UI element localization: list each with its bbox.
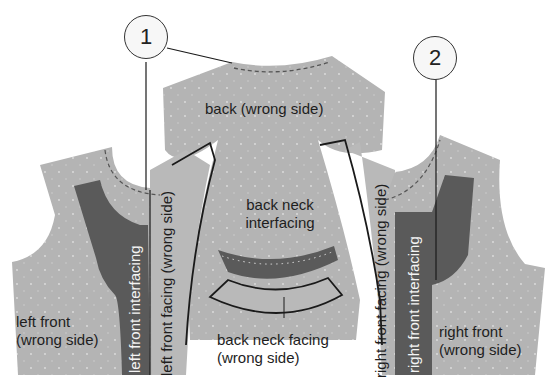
- right-front-facing-label: right front facing (wrong side): [372, 184, 389, 378]
- sewing-diagram: 1 2 back (wrong side) back neck interfac…: [0, 0, 556, 389]
- right-front-label-line1: right front: [439, 323, 522, 341]
- back-neck-interfacing-label-line2: interfacing: [238, 214, 322, 232]
- right-front-label-line2: (wrong side): [439, 341, 522, 359]
- right-front-label: right front (wrong side): [439, 323, 522, 359]
- callout-1-leader-diagonal: [167, 48, 232, 63]
- callout-1: 1: [124, 15, 168, 59]
- back-neck-facing-label-line2: (wrong side): [217, 349, 329, 367]
- left-front-label: left front (wrong side): [16, 313, 99, 349]
- left-front-interfacing-label: left front interfacing: [126, 245, 143, 373]
- back-neck-facing-label: back neck facing (wrong side): [217, 331, 329, 367]
- callout-2: 2: [413, 36, 457, 80]
- back-neck-interfacing-label: back neck interfacing: [238, 196, 322, 232]
- right-front-interfacing-label: right front interfacing: [405, 236, 422, 373]
- back-neck-interfacing-label-line1: back neck: [238, 196, 322, 214]
- left-front-facing-label: left front facing (wrong side): [158, 191, 175, 376]
- left-front-label-line1: left front: [16, 313, 99, 331]
- back-label: back (wrong side): [205, 100, 323, 118]
- back-neck-facing-label-line1: back neck facing: [217, 331, 329, 349]
- left-front-label-line2: (wrong side): [16, 331, 99, 349]
